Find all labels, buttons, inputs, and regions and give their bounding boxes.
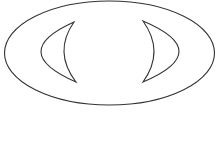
outer-ellipse bbox=[5, 1, 215, 105]
right-crescent bbox=[143, 21, 179, 82]
left-crescent bbox=[41, 22, 76, 82]
diagram-canvas bbox=[0, 0, 219, 142]
